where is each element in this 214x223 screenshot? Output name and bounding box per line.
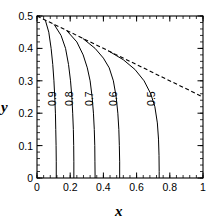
contour-labels-group: 0.90.80.70.60.5 (46, 91, 157, 106)
data-series-group (37, 16, 203, 178)
contour-label-0.6: 0.6 (107, 91, 119, 106)
y-tick-label: 0.1 (18, 140, 33, 152)
y-tick-label: 0.5 (18, 10, 33, 22)
series-line-0.6 (83, 38, 120, 178)
contour-label-0.9: 0.9 (46, 91, 58, 106)
y-tick-label: 0.2 (18, 107, 33, 119)
x-axis-label: x (115, 203, 123, 220)
x-tick-label: 0 (34, 181, 40, 193)
contour-label-0.8: 0.8 (63, 91, 75, 106)
x-tick-label: 0.8 (162, 181, 177, 193)
y-tick-label: 0 (27, 172, 33, 184)
x-tick-label: 0.2 (63, 181, 78, 193)
plot-canvas: 00.20.40.60.81 00.10.20.30.40.5 0.90.80.… (0, 0, 214, 223)
x-tick-label: 1 (200, 181, 206, 193)
x-tick-label: 0.4 (96, 181, 111, 193)
x-axis-tick-labels: 00.20.40.60.81 (34, 181, 206, 193)
contour-label-0.5: 0.5 (145, 91, 157, 106)
series-line-0.5 (108, 51, 159, 178)
y-tick-label: 0.3 (18, 75, 33, 87)
contour-label-0.7: 0.7 (83, 91, 95, 106)
contour-plot-figure: 00.20.40.60.81 00.10.20.30.40.5 0.90.80.… (0, 0, 214, 223)
y-tick-label: 0.4 (18, 42, 33, 54)
series-line-envelope (37, 16, 203, 97)
y-axis-label: y (1, 99, 8, 116)
x-tick-label: 0.6 (129, 181, 144, 193)
y-axis-tick-labels: 00.10.20.30.40.5 (18, 10, 33, 184)
